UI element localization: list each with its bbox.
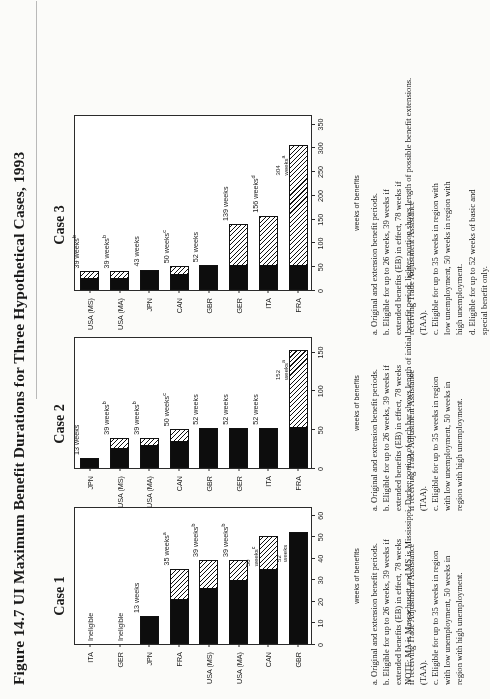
bar-segment-initial (81, 278, 98, 289)
case-2-footnotes: a. Original and extension benefit period… (368, 361, 466, 511)
category-tick (208, 644, 209, 647)
bar (289, 532, 308, 644)
bar-segment-initial (141, 617, 158, 643)
category-label: USA (MA) (115, 298, 124, 336)
category-label: USA (MS) (204, 652, 213, 686)
bar (199, 265, 218, 290)
bar-value-label: 139 weeks (221, 187, 230, 221)
bar-value-label: 39 weeksb (71, 235, 81, 268)
category-label: GER (234, 476, 243, 512)
category-label: USA (MS) (115, 476, 124, 512)
category-label: GBR (294, 652, 303, 686)
bar-segment-extension (171, 430, 188, 441)
x-tick-label: 60 (316, 512, 325, 520)
x-tick-label: 50 (316, 533, 325, 541)
category-tick (119, 468, 120, 471)
bar-value-label: 39 weeksb (101, 401, 111, 434)
bar-value-label: 152weeksa (274, 360, 289, 380)
bar-value-label: 39 weeksb (131, 401, 141, 434)
bar-segment-initial (141, 445, 158, 467)
bar (289, 145, 308, 290)
category-label: ITA (264, 298, 273, 336)
footnote-item: a. Original and extension benefit period… (368, 361, 380, 511)
ineligible-label: Ineligible (85, 613, 94, 641)
bar-segment-extension (111, 272, 128, 278)
bar-value-label: 304weeksa (274, 155, 289, 175)
x-tick (312, 622, 315, 623)
category-tick (89, 468, 90, 471)
category-tick (208, 468, 209, 471)
x-tick (312, 290, 315, 291)
x-tick-label: 50 (316, 426, 325, 434)
x-tick (312, 171, 315, 172)
category-tick (179, 644, 180, 647)
category-label: ITA (85, 652, 94, 686)
x-tick-label: 300 (316, 142, 325, 154)
x-tick (312, 124, 315, 125)
category-label: GER (234, 298, 243, 336)
case-2-x-axis-title: weeks of benefits (352, 375, 361, 431)
bar-segment-initial (81, 459, 98, 467)
x-tick-label: 30 (316, 576, 325, 584)
category-tick (149, 468, 150, 471)
footnote-item: d. Eligible for up to 52 weeks of basic … (466, 175, 490, 335)
bar (80, 271, 99, 290)
x-tick-label: 40 (316, 555, 325, 563)
x-tick-label: 100 (316, 385, 325, 397)
x-tick-label: 150 (316, 214, 325, 226)
footnote-item: c. Eligible for up to 35 weeks in region… (429, 535, 466, 685)
bar-segment-initial (200, 588, 217, 643)
x-tick (312, 266, 315, 267)
x-tick-label: 100 (316, 237, 325, 249)
bar-segment-initial (290, 533, 307, 643)
bar-segment-extension (200, 561, 217, 588)
x-tick-label: 10 (316, 619, 325, 627)
bar (170, 429, 189, 468)
bar-segment-initial (230, 580, 247, 643)
footnote-item: c. Eligible for up to 35 weeks in region… (429, 175, 466, 335)
bar-segment-initial (200, 266, 217, 289)
category-label: USA (MA) (145, 476, 154, 512)
case-1-x-axis-title: weeks of benefits (352, 548, 361, 604)
bar-segment-initial (260, 569, 277, 643)
category-label: GBR (204, 476, 213, 512)
category-tick (149, 644, 150, 647)
category-label: CAN (264, 652, 273, 686)
bar-value-label: 35 weeksa (160, 532, 170, 565)
x-tick (312, 579, 315, 580)
case-1-plot-area: ITAIneligibleGERIneligibleJPN13 weeksFRA… (74, 507, 312, 645)
footnote-item: c. Eligible for up to 35 weeks in region… (429, 361, 466, 511)
bar (229, 560, 248, 644)
bar-value-label: 52 weeks (250, 394, 259, 424)
bar-segment-extension (171, 570, 188, 599)
x-tick (312, 536, 315, 537)
bar-segment-initial (230, 265, 247, 289)
category-label: GBR (204, 298, 213, 336)
x-tick (312, 644, 315, 645)
x-tick-label: 0 (316, 289, 325, 293)
category-tick (119, 290, 120, 293)
header-rule (36, 1, 37, 399)
category-tick (268, 290, 269, 293)
bar-value-label: 50 weeksc (160, 393, 170, 426)
bar-segment-extension (171, 267, 188, 274)
x-tick-label: 350 (316, 119, 325, 131)
bar (140, 270, 159, 290)
category-label: FRA (175, 652, 184, 686)
x-tick (312, 242, 315, 243)
category-tick (119, 644, 120, 647)
bar-value-label: 50 weeksc (160, 230, 170, 263)
bar-segment-initial (290, 265, 307, 289)
bar-segment-extension (260, 217, 277, 265)
category-tick (89, 644, 90, 647)
bar (170, 569, 189, 644)
bar-value-label: 39 weeksb (101, 235, 111, 268)
bar-segment-initial (171, 599, 188, 643)
figure-note: NOTE: MA is Massachusett and MS is Missi… (402, 13, 414, 685)
case-3-title: Case 3 (52, 115, 68, 335)
case-1-title: Case 1 (52, 507, 68, 685)
bar-value-label: 13 weeks (131, 583, 140, 613)
bar-value-label: 39 weeksb (190, 524, 200, 557)
category-tick (298, 290, 299, 293)
ineligible-label: Ineligible (115, 613, 124, 641)
